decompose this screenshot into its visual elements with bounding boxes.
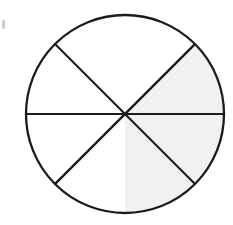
- scan-artifact-mark: [2, 20, 5, 29]
- figure-canvas: [0, 0, 233, 225]
- fraction-circle-diagram: [0, 0, 233, 225]
